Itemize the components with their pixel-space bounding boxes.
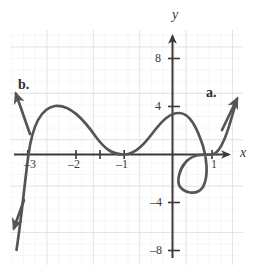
y-tick-label-8: 8 (155, 52, 161, 64)
y-axis-label: y (172, 8, 178, 22)
x-axis-label: x (240, 146, 246, 160)
x-tick-label-1: 1 (211, 158, 217, 170)
graph-canvas (0, 0, 256, 265)
y-tick-label-4: 4 (155, 100, 161, 112)
annotation-b: b. (18, 78, 29, 92)
x-tick-label--2: –2 (68, 158, 80, 170)
graph-figure: y x –3 –2 –1 1 8 4 –4 –8 b. a. (0, 0, 256, 265)
annotation-a: a. (206, 86, 217, 100)
y-tick-label--8: –8 (150, 244, 162, 256)
x-tick-label--1: –1 (116, 158, 128, 170)
grid-layer (10, 30, 243, 265)
y-tick-label--4: –4 (150, 196, 162, 208)
x-tick-label--3: –3 (24, 158, 36, 170)
